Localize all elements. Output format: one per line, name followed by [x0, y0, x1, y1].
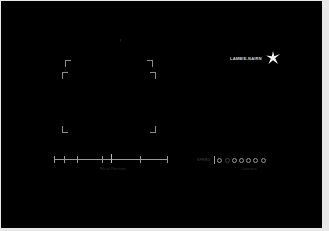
star-burst-icon	[266, 51, 280, 65]
ruler-tick	[77, 156, 78, 163]
control-dot-4[interactable]	[239, 158, 244, 163]
controls-divider	[214, 156, 215, 164]
brand-logo: LAMBIE-NAIRN	[230, 51, 280, 65]
ruler-tick	[54, 156, 55, 163]
frame-corner-top-left-outer	[65, 60, 71, 67]
controls-caption: Controls	[229, 167, 269, 171]
focal-position-slider[interactable]	[54, 159, 168, 160]
control-dot-2[interactable]	[225, 158, 230, 163]
ruler-tick	[140, 156, 141, 163]
control-dot-6[interactable]	[253, 158, 258, 163]
slider-handle[interactable]	[111, 154, 112, 163]
frame-corner-top-right-outer	[147, 60, 153, 67]
ruler-tick	[167, 156, 168, 163]
frame-corner-bottom-left	[62, 126, 68, 133]
ruler-tick	[102, 156, 103, 163]
frame-corner-top-left-inner	[62, 72, 68, 79]
brand-name: LAMBIE-NAIRN	[230, 56, 262, 61]
control-dot-5[interactable]	[246, 158, 251, 163]
control-dot-1[interactable]	[217, 158, 222, 163]
controls-label: SPEED	[197, 158, 210, 162]
frame-corner-bottom-right	[150, 126, 156, 133]
control-dot-3[interactable]	[232, 158, 237, 163]
frame-corner-top-right-inner	[150, 72, 156, 79]
slider-label: Focal Position	[93, 167, 133, 171]
top-marker	[120, 39, 121, 42]
control-dot-7[interactable]	[261, 158, 266, 163]
ruler-tick	[64, 156, 65, 163]
controls-group: SPEED	[197, 156, 268, 164]
viewer-panel: LAMBIE-NAIRN Focal Position SPEED Contro…	[1, 1, 322, 228]
